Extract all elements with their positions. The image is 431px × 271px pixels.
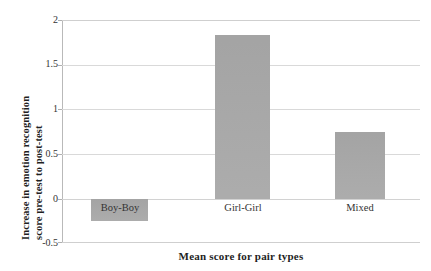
y-tick-label-0-5: 0.5 (18, 149, 58, 159)
y-tick-label-neg0-5: -0.5 (18, 238, 58, 248)
y-axis-line (62, 20, 63, 243)
bar-girl-girl[interactable] (215, 35, 270, 199)
y-axis-tick-labels: 2 1.5 1 0.5 0 -0.5 (18, 0, 58, 271)
x-category-label-boy-boy: Boy-Boy (86, 203, 154, 214)
y-tickmark-neg0-5 (58, 242, 62, 243)
y-tickmark-1-5 (58, 65, 62, 66)
gridline-2 (62, 20, 420, 21)
y-tickmark-0-5 (58, 154, 62, 155)
y-tick-label-2: 2 (18, 15, 58, 25)
x-axis-title: Mean score for pair types (62, 250, 420, 262)
bar-chart-figure: Increase in emotion recognition score pr… (0, 0, 431, 271)
bar-mixed[interactable] (335, 132, 385, 199)
plot-area: Boy-Boy Girl-Girl Mixed (62, 20, 420, 243)
x-category-label-girl-girl: Girl-Girl (208, 203, 278, 214)
y-tick-label-1-5: 1.5 (18, 59, 58, 69)
y-tickmark-0 (58, 199, 62, 200)
y-tickmark-1 (58, 109, 62, 110)
y-tick-label-0: 0 (18, 194, 58, 204)
y-tickmark-2 (58, 20, 62, 21)
x-category-label-mixed: Mixed (330, 203, 390, 214)
y-tick-label-1: 1 (18, 104, 58, 114)
gridline-neg0-5 (62, 242, 420, 243)
